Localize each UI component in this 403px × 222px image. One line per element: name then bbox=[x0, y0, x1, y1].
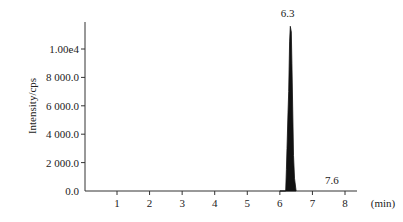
x-tick-label: 3 bbox=[179, 197, 185, 209]
chromatogram-peak bbox=[280, 26, 296, 191]
peak-label-main: 6.3 bbox=[281, 7, 295, 19]
y-tick-label: 1.00e4 bbox=[49, 43, 79, 55]
x-tick-label: 8 bbox=[342, 197, 348, 209]
chromatogram-chart: 0.02 000.04 000.06 000.08 000.01.00e4 12… bbox=[0, 0, 403, 222]
x-tick-label: 7 bbox=[310, 197, 316, 209]
y-tick-label: 6 000.0 bbox=[46, 100, 80, 112]
x-tick-label: 6 bbox=[277, 197, 283, 209]
x-tick-label: 4 bbox=[212, 197, 218, 209]
x-axis-title: (min) bbox=[371, 197, 396, 210]
y-tick-label: 8 000.0 bbox=[46, 71, 80, 83]
x-ticks: 12345678 bbox=[114, 191, 348, 209]
y-axis-title: Intensity/cps bbox=[26, 78, 38, 134]
y-tick-label: 0.0 bbox=[65, 185, 79, 197]
x-tick-label: 2 bbox=[147, 197, 153, 209]
x-tick-label: 1 bbox=[114, 197, 120, 209]
x-tick-label: 5 bbox=[245, 197, 251, 209]
y-tick-label: 4 000.0 bbox=[46, 128, 80, 140]
peak-label-minor: 7.6 bbox=[325, 174, 339, 186]
y-ticks: 0.02 000.04 000.06 000.08 000.01.00e4 bbox=[46, 43, 85, 197]
y-tick-label: 2 000.0 bbox=[46, 157, 80, 169]
